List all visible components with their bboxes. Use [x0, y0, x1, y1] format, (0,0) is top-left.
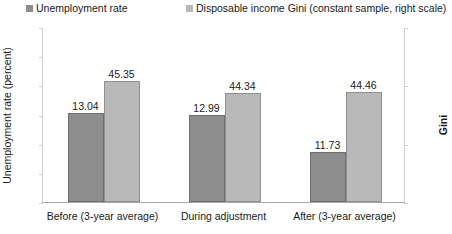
y-axis-left-tick — [39, 116, 43, 117]
y-axis-right-tick — [404, 86, 408, 87]
bar-value-label: 44.46 — [332, 79, 396, 91]
plot-area: 161514131211105045403513.0445.3512.9944.… — [42, 28, 405, 203]
bar-gini[interactable] — [346, 92, 382, 202]
bar-unemployment-rate[interactable] — [310, 152, 346, 202]
bar-value-label: 44.34 — [211, 80, 275, 92]
chart-legend: Unemployment rate Disposable income Gini… — [0, 2, 452, 18]
y-axis-right-tick — [404, 203, 408, 204]
y-axis-right-tick — [404, 145, 408, 146]
legend-label-disposable-income-gini: Disposable income Gini (constant sample,… — [196, 2, 446, 14]
x-axis-category-label: During adjustment — [163, 210, 284, 223]
y-axis-left-tick — [39, 174, 43, 175]
y-axis-right-title: Gini — [436, 95, 450, 155]
y-axis-left-title: Unemployment rate (percent) — [0, 28, 14, 203]
bar-value-label: 45.35 — [90, 68, 154, 80]
x-axis-category-label: Before (3-year average) — [42, 210, 163, 223]
bar-unemployment-rate[interactable] — [68, 113, 104, 202]
legend-label-unemployment-rate: Unemployment rate — [36, 2, 128, 14]
y-axis-left-tick — [39, 203, 43, 204]
legend-swatch-unemployment-rate — [26, 5, 33, 12]
y-axis-left-tick — [39, 57, 43, 58]
y-axis-right-tick — [404, 28, 408, 29]
legend-item-disposable-income-gini[interactable]: Disposable income Gini (constant sample,… — [186, 2, 446, 14]
bar-gini[interactable] — [225, 93, 261, 202]
chart-container: Unemployment rate Disposable income Gini… — [0, 0, 452, 234]
bar-gini[interactable] — [104, 81, 140, 202]
bar-unemployment-rate[interactable] — [189, 115, 225, 202]
y-axis-left-tick — [39, 86, 43, 87]
x-axis-category-label: After (3-year average) — [284, 210, 405, 223]
y-axis-left-tick — [39, 145, 43, 146]
legend-item-unemployment-rate[interactable]: Unemployment rate — [26, 2, 128, 14]
legend-swatch-disposable-income-gini — [186, 5, 193, 12]
y-axis-left-tick — [39, 28, 43, 29]
